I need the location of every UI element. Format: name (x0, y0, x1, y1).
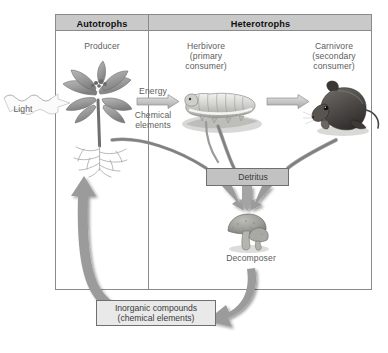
label-energy: Energy (128, 86, 178, 96)
label-decomposer: Decomposer (209, 253, 293, 263)
figure-canvas: Autotrophs Heterotrophs Producer Herbivo… (0, 0, 388, 353)
column-header-autotrophs: Autotrophs (56, 19, 148, 29)
label-herbivore: Herbivore (primary consumer) (158, 41, 254, 72)
label-producer: Producer (60, 41, 144, 51)
label-inorganic-compounds: Inorganic compounds (chemical elements) (98, 303, 214, 324)
label-light: Light (2, 104, 44, 114)
label-detritus: Detritus (222, 172, 284, 182)
label-chemical-elements: Chemical elements (124, 110, 182, 130)
label-carnivore: Carnivore (secondary consumer) (288, 41, 380, 72)
column-header-heterotrophs: Heterotrophs (149, 19, 372, 29)
